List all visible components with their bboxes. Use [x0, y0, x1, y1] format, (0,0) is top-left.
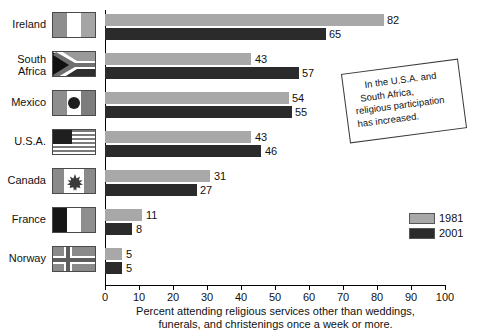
- x-tick-50: [275, 285, 276, 290]
- bar-canada-1981: [105, 170, 210, 182]
- bar-value-south-africa-1981: 43: [255, 53, 267, 65]
- bar-norway-1981: [105, 248, 122, 260]
- flag-france: [52, 207, 96, 233]
- category-label-canada: Canada: [2, 175, 46, 187]
- bar-france-2001: [105, 223, 132, 235]
- bar-value-france-2001: 8: [136, 223, 142, 235]
- bar-ireland-2001: [105, 28, 326, 40]
- annotation-callout: In the U.S.A. and South Africa, religiou…: [341, 59, 467, 144]
- bar-mexico-1981: [105, 92, 289, 104]
- bar-value-canada-1981: 31: [214, 170, 226, 182]
- bar-ireland-1981: [105, 14, 384, 26]
- bar-value-ireland-1981: 82: [387, 14, 399, 26]
- x-tick-label-50: 50: [269, 291, 281, 303]
- x-tick-40: [241, 285, 242, 290]
- flag-norway: [52, 246, 96, 272]
- x-axis-caption-line-1: Percent attending religious services oth…: [105, 305, 446, 318]
- bar-value-france-1981: 11: [146, 209, 157, 221]
- x-tick-label-60: 60: [303, 291, 315, 303]
- category-label-mexico: Mexico: [2, 97, 46, 109]
- category-label-ireland: Ireland: [2, 19, 46, 31]
- bar-canada-2001: [105, 184, 197, 196]
- x-tick-label-100: 100: [436, 291, 454, 303]
- x-tick-label-10: 10: [133, 291, 145, 303]
- flag-south-africa: [52, 51, 96, 77]
- x-tick-30: [207, 285, 208, 290]
- bar-usa-2001: [105, 145, 261, 157]
- flag-mexico: [52, 90, 96, 116]
- bar-value-mexico-2001: 55: [295, 106, 307, 118]
- category-label-usa: U.S.A.: [2, 136, 46, 148]
- bar-value-norway-2001: 5: [126, 262, 132, 274]
- flag-ireland: [52, 12, 96, 38]
- x-tick-10: [139, 285, 140, 290]
- category-label-france: France: [2, 214, 46, 226]
- bar-mexico-2001: [105, 106, 292, 118]
- x-axis-caption: Percent attending religious services oth…: [105, 305, 446, 331]
- category-label-south-africa: South Africa: [2, 54, 46, 77]
- x-tick-label-40: 40: [235, 291, 247, 303]
- x-tick-label-70: 70: [337, 291, 349, 303]
- bar-value-usa-1981: 43: [255, 131, 267, 143]
- x-tick-label-20: 20: [167, 291, 179, 303]
- category-label-norway: Norway: [2, 253, 46, 265]
- legend: 1981 2001: [409, 212, 473, 242]
- x-tick-label-90: 90: [405, 291, 417, 303]
- bar-france-1981: [105, 209, 142, 221]
- legend-label-2001: 2001: [439, 227, 463, 240]
- x-tick-70: [343, 285, 344, 290]
- x-tick-label-80: 80: [371, 291, 383, 303]
- bar-value-usa-2001: 46: [265, 145, 277, 157]
- x-tick-label-0: 0: [102, 291, 108, 303]
- legend-label-1981: 1981: [439, 212, 463, 225]
- legend-swatch-1981: [409, 213, 435, 224]
- legend-swatch-2001: [409, 228, 435, 239]
- x-tick-label-30: 30: [201, 291, 213, 303]
- flag-canada: [52, 168, 96, 194]
- x-tick-90: [411, 285, 412, 290]
- bar-south-africa-2001: [105, 67, 299, 79]
- x-tick-60: [309, 285, 310, 290]
- x-axis-caption-line-2: funerals, and christenings once a week o…: [105, 318, 446, 331]
- bar-value-south-africa-2001: 57: [302, 67, 314, 79]
- x-tick-80: [377, 285, 378, 290]
- flag-usa: [52, 129, 96, 155]
- plot-area: 82 65 43 57 54 55 43 46 31 27 11 8 5 5: [105, 10, 448, 282]
- x-tick-100: [445, 285, 446, 290]
- bar-usa-1981: [105, 131, 251, 143]
- legend-item-1981: 1981: [409, 212, 473, 225]
- bar-value-canada-2001: 27: [200, 184, 212, 196]
- bar-value-mexico-1981: 54: [292, 92, 304, 104]
- legend-item-2001: 2001: [409, 227, 473, 240]
- chart-container: Ireland South Africa Mexico U.S.A.: [0, 0, 482, 333]
- bar-norway-2001: [105, 262, 122, 274]
- bar-value-ireland-2001: 65: [329, 28, 341, 40]
- x-tick-20: [173, 285, 174, 290]
- bar-south-africa-1981: [105, 53, 251, 65]
- bar-value-norway-1981: 5: [126, 248, 132, 260]
- x-tick-0: [105, 285, 106, 290]
